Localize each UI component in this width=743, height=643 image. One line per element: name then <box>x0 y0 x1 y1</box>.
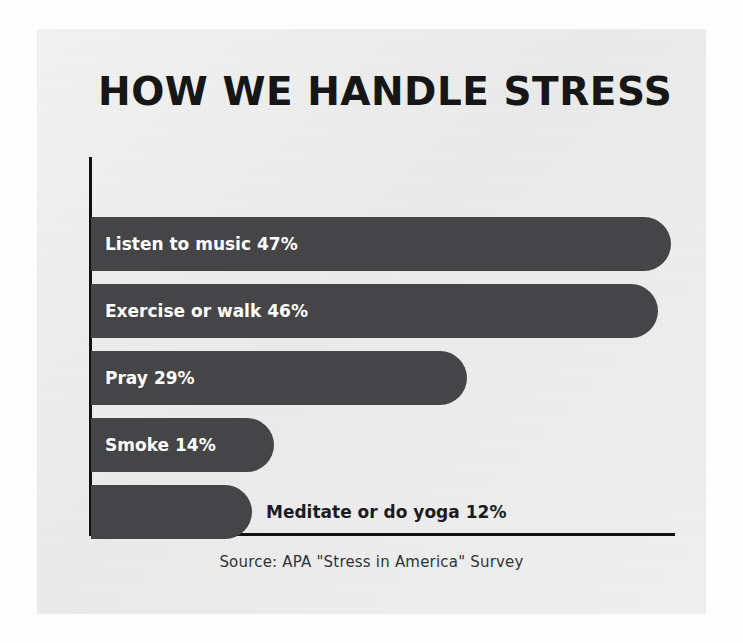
bar-value-label: 14% <box>175 435 216 455</box>
poster-card: HOW WE HANDLE STRESS Listen to music 47%… <box>37 29 706 614</box>
bar-value-label: 12% <box>466 502 507 522</box>
bar-label-pray: Pray 29% <box>105 351 195 405</box>
bar-category-label: Meditate or do yoga <box>266 502 460 522</box>
bar-category-label: Smoke <box>105 435 169 455</box>
poster-content: HOW WE HANDLE STRESS Listen to music 47%… <box>37 29 706 614</box>
bar-meditate-or-do-yoga <box>91 485 252 539</box>
y-axis-line <box>89 157 92 536</box>
bar-label-listen-to-music: Listen to music 47% <box>105 217 298 271</box>
bar-category-label: Pray <box>105 368 148 388</box>
bar-value-label: 29% <box>154 368 195 388</box>
bar-category-label: Listen to music <box>105 234 251 254</box>
page-title: HOW WE HANDLE STRESS <box>98 70 688 114</box>
bar-label-meditate-or-do-yoga: Meditate or do yoga 12% <box>266 485 506 539</box>
bar-label-smoke: Smoke 14% <box>105 418 216 472</box>
bar-label-exercise-or-walk: Exercise or walk 46% <box>105 284 308 338</box>
source-caption: Source: APA "Stress in America" Survey <box>37 553 706 571</box>
bar-category-label: Exercise or walk <box>105 301 261 321</box>
bar-value-label: 47% <box>257 234 298 254</box>
bar-value-label: 46% <box>267 301 308 321</box>
bar-chart-plot-area: Listen to music 47% Exercise or walk 46%… <box>89 157 689 537</box>
